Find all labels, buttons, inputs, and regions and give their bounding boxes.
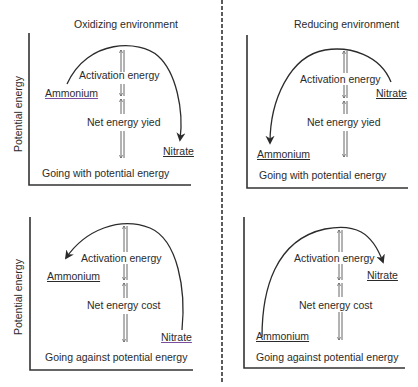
- end-species-label: Nitrate: [163, 146, 194, 157]
- axes-top-left: [29, 33, 191, 185]
- energy-arrows-top-left: [121, 50, 124, 158]
- end-species-label: Ammonium: [47, 271, 100, 282]
- net-energy-label: Net energy yied: [87, 117, 161, 128]
- reaction-curve-top-right: [270, 49, 391, 143]
- energy-arrows-bottom-right: [339, 230, 342, 340]
- energy-arrows-top-right: [344, 51, 347, 157]
- header-reducing: Reducing environment: [294, 19, 399, 30]
- axes-top-right: [247, 35, 408, 188]
- caption: Going against potential energy: [256, 352, 398, 363]
- axes-bottom-right: [244, 217, 405, 368]
- net-energy-label: Net energy cost: [87, 300, 161, 311]
- end-species-label: Nitrate: [367, 270, 398, 281]
- energy-arrows-bottom-left: [124, 226, 127, 342]
- start-species-label: Ammonium: [45, 88, 98, 99]
- axes-bottom-left: [30, 217, 193, 370]
- reaction-curve-bottom-right: [262, 227, 383, 337]
- start-species-label: Ammonium: [256, 331, 309, 342]
- caption: Going with potential energy: [259, 170, 386, 181]
- activation-label: Activation energy: [294, 253, 375, 264]
- y-axis-label-top: Potential energy: [13, 76, 24, 152]
- end-species-label: Ammonium: [257, 149, 310, 160]
- caption: Going against potential energy: [45, 352, 187, 363]
- net-energy-label: Net energy cost: [299, 300, 373, 311]
- activation-label: Activation energy: [79, 70, 160, 81]
- caption: Going with potential energy: [42, 168, 169, 179]
- header-oxidizing: Oxidizing environment: [74, 19, 178, 30]
- activation-label: Activation energy: [300, 74, 381, 85]
- y-axis-label-bottom: Potential energy: [13, 259, 24, 335]
- net-energy-label: Net energy yied: [307, 117, 381, 128]
- start-species-label: Nitrate: [161, 332, 192, 343]
- activation-label: Activation energy: [81, 253, 162, 264]
- start-species-label: Nitrate: [376, 88, 407, 99]
- diagram-canvas: [0, 0, 418, 387]
